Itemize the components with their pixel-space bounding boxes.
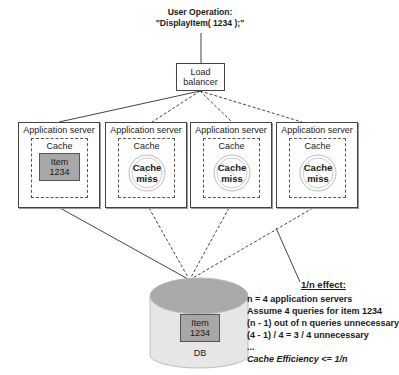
cache-miss-label-1: Cache xyxy=(298,162,338,173)
user-operation-title: User Operation: xyxy=(146,6,254,17)
cache-label: Cache xyxy=(290,141,345,151)
cache-miss-label-2: miss xyxy=(127,173,167,184)
db-item-id: 1234 xyxy=(181,328,219,338)
server-name: Application server xyxy=(19,125,99,135)
cache-miss-label-2: miss xyxy=(212,173,252,184)
effect-line: Assume 4 queries for item 1234 xyxy=(247,305,399,317)
cache-miss-label-1: Cache xyxy=(127,162,167,173)
load-balancer-label-2: balancer xyxy=(177,77,224,87)
cache-miss-label-1: Cache xyxy=(212,162,252,173)
cache-region: Cache Cache miss xyxy=(203,138,260,198)
application-server-3: Application server Cache Cache miss xyxy=(190,122,272,208)
server-name: Application server xyxy=(277,125,357,135)
effect-title: 1/n effect: xyxy=(301,279,346,290)
cached-item-label: Item xyxy=(40,157,79,167)
cached-item: Item 1234 xyxy=(39,153,80,181)
db-label: DB xyxy=(186,348,214,358)
application-server-1: Application server Cache Item 1234 xyxy=(18,122,100,208)
cache-region: Cache Cache miss xyxy=(289,138,346,198)
effect-notes: n = 4 application servers Assume 4 queri… xyxy=(247,293,399,365)
cache-label: Cache xyxy=(32,141,87,151)
server-name: Application server xyxy=(191,125,271,135)
db-item: Item 1234 xyxy=(180,314,220,342)
cache-miss: Cache miss xyxy=(212,153,252,193)
cache-label: Cache xyxy=(204,141,259,151)
server-name: Application server xyxy=(106,125,186,135)
effect-line: (4 - 1) / 4 = 3 / 4 unnecessary xyxy=(247,329,399,341)
cache-miss-label-2: miss xyxy=(298,173,338,184)
cached-item-id: 1234 xyxy=(40,167,79,177)
effect-line: ... xyxy=(247,341,399,353)
user-operation-call: "DisplayItem( 1234 );" xyxy=(146,17,254,28)
effect-line: n = 4 application servers xyxy=(247,293,399,305)
user-operation-label: User Operation: "DisplayItem( 1234 );" xyxy=(146,6,254,28)
effect-line: (n - 1) out of n queries unnecessary xyxy=(247,317,399,329)
load-balancer-box: Load balancer xyxy=(176,63,225,91)
cache-miss: Cache miss xyxy=(127,153,167,193)
cache-miss: Cache miss xyxy=(298,153,338,193)
application-server-2: Application server Cache Cache miss xyxy=(105,122,187,208)
load-balancer-label-1: Load xyxy=(177,67,224,77)
cache-label: Cache xyxy=(119,141,174,151)
cache-efficiency-line: Cache Efficiency <= 1/n xyxy=(247,353,399,365)
db-item-label: Item xyxy=(181,318,219,328)
application-server-4: Application server Cache Cache miss xyxy=(276,122,358,208)
cache-region: Cache Item 1234 xyxy=(31,138,88,198)
cache-region: Cache Cache miss xyxy=(118,138,175,198)
